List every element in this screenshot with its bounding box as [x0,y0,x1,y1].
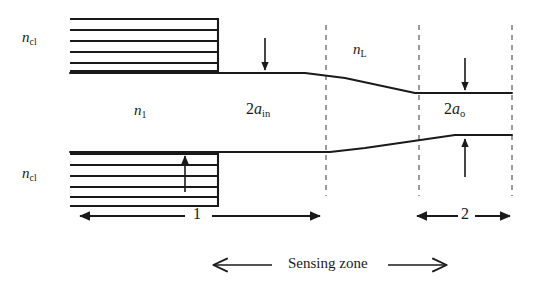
label-cladding-top: ncl [22,29,37,47]
diameter-measure-arrows [185,38,465,192]
figure-canvas: ncl ncl n1 nL 2ain 2ao 1 2 Sensing zone [0,0,540,297]
cladding-block-top [70,19,218,71]
diagram-vector-layer [0,0,540,297]
waveguide-lower-boundary [70,135,512,152]
label-sensing-zone: Sensing zone [288,255,368,272]
label-cladding-top-sub: cl [30,36,37,47]
waveguide-upper-boundary [70,73,512,93]
label-diameter-in: 2ain [246,100,270,119]
label-liquid-index: nL [353,41,367,59]
label-core-index: n1 [134,102,147,120]
label-cladding-bottom: ncl [22,165,37,183]
label-diameter-out: 2ao [444,100,465,119]
label-region-two: 2 [461,205,469,223]
label-liquid-index-sub: L [361,48,367,59]
label-core-index-sub: 1 [142,109,147,120]
label-diameter-out-prefix: 2 [444,100,452,117]
label-region-one: 1 [193,205,201,223]
cladding-block-bottom [70,154,218,206]
label-diameter-out-sub: o [460,108,465,119]
label-diameter-in-sub: in [262,108,270,119]
label-cladding-bottom-sub: cl [30,172,37,183]
label-diameter-in-prefix: 2 [246,100,254,117]
